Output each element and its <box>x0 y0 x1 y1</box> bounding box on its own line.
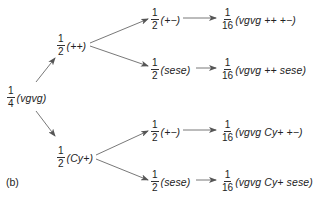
figure-label: (b) <box>6 176 19 188</box>
node-level2-sese-bottom: 1 2 (sese) <box>151 170 190 193</box>
node-result-2: 1 16 (vgvg ++ sese) <box>222 58 306 81</box>
fraction: 1 2 <box>151 58 159 81</box>
node-expression: (sese) <box>161 176 191 188</box>
fraction: 1 2 <box>57 146 65 169</box>
node-level2-sese-top: 1 2 (sese) <box>151 58 190 81</box>
node-expression: (vgvg Cy+ sese) <box>235 176 313 188</box>
fraction: 1 16 <box>222 170 233 193</box>
arrow-pp-to-pm <box>90 19 148 43</box>
fraction: 1 16 <box>222 8 233 31</box>
arrow-cy-to-sese <box>96 159 148 180</box>
node-level2-pm-top: 1 2 (+−) <box>151 8 180 31</box>
fraction: 1 2 <box>151 170 159 193</box>
arrow-root-to-pp <box>36 58 55 82</box>
arrow-cy-to-pm <box>96 131 148 155</box>
arrow-pp-to-sese <box>90 46 148 66</box>
node-expression: (vgvg ++ +−) <box>235 14 296 26</box>
node-level1-pp: 1 2 (++) <box>57 34 86 57</box>
fraction: 1 16 <box>222 120 233 143</box>
node-expression: (+−) <box>161 14 181 26</box>
node-expression: (vgvg Cy+ +−) <box>235 126 303 138</box>
fraction: 1 2 <box>57 34 65 57</box>
node-result-4: 1 16 (vgvg Cy+ sese) <box>222 170 313 193</box>
node-expression: (sese) <box>161 64 191 76</box>
node-expression: (vgvg ++ sese) <box>235 64 306 76</box>
node-result-1: 1 16 (vgvg ++ +−) <box>222 8 296 31</box>
fraction: 1 2 <box>151 120 159 143</box>
node-expression: (Cy+) <box>67 152 93 164</box>
node-result-3: 1 16 (vgvg Cy+ +−) <box>222 120 303 143</box>
arrow-root-to-cy <box>36 111 55 136</box>
fraction: 1 16 <box>222 58 233 81</box>
node-level1-cy: 1 2 (Cy+) <box>57 146 93 169</box>
fraction: 1 2 <box>151 8 159 31</box>
fraction: 1 4 <box>7 86 15 109</box>
node-expression: (++) <box>67 40 87 52</box>
node-root: 1 4 (vgvg) <box>7 86 46 109</box>
node-expression: (vgvg) <box>17 92 47 104</box>
node-level2-pm-bottom: 1 2 (+−) <box>151 120 180 143</box>
node-expression: (+−) <box>161 126 181 138</box>
